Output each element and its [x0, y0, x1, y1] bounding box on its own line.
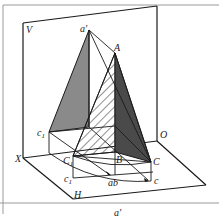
- projection-diagram: V a′ A c1 X O C1 B C c1 ab c H a′: [0, 0, 219, 216]
- label-X: X: [14, 153, 22, 164]
- label-H: H: [73, 189, 82, 200]
- label-c: c: [154, 175, 159, 186]
- label-ab: ab: [108, 177, 118, 188]
- label-a-prime: a′: [80, 23, 88, 34]
- v-projection-triangle: [49, 30, 89, 132]
- label-O: O: [160, 129, 167, 140]
- label-C1: C1: [63, 155, 73, 168]
- label-v-plane: V: [26, 24, 34, 35]
- label-C: C: [153, 156, 160, 167]
- label-c1-prime: c1: [37, 127, 45, 140]
- label-c1: c1: [64, 173, 72, 186]
- label-B: B: [116, 154, 122, 165]
- label-A: A: [113, 42, 121, 53]
- label-bottom-a-prime: a′: [114, 207, 122, 216]
